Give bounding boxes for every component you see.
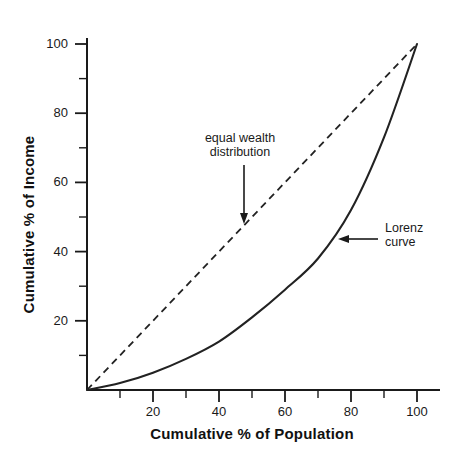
x-tick-label: 80 [331, 404, 371, 419]
y-tick-label: 40 [28, 244, 68, 259]
y-axis-major-ticks [75, 44, 87, 321]
y-tick-label: 80 [28, 105, 68, 120]
y-tick-label: 60 [28, 174, 68, 189]
x-axis-major-ticks [153, 390, 417, 402]
x-tick-label: 40 [199, 404, 239, 419]
y-tick-label: 20 [28, 313, 68, 328]
y-axis-title: Cumulative % of Income [20, 125, 37, 325]
y-axis-minor-ticks [79, 79, 87, 356]
x-axis-title: Cumulative % of Population [87, 425, 417, 442]
x-tick-label: 20 [133, 404, 173, 419]
lorenz-curve-chart: Cumulative % of Income Cumulative % of P… [0, 0, 470, 465]
x-tick-label: 100 [397, 404, 437, 419]
y-tick-label: 100 [28, 36, 68, 51]
x-tick-label: 60 [265, 404, 305, 419]
equal-wealth-annotation-text: equal wealth distribution [178, 131, 302, 159]
equality-line [87, 44, 417, 390]
lorenz-arrow-icon [338, 235, 378, 243]
lorenz-curve-annotation-text: Lorenz curve [385, 221, 455, 249]
lorenz-curve-line [87, 44, 417, 390]
equal-wealth-arrow-icon [240, 165, 248, 224]
x-axis-minor-ticks [120, 390, 384, 398]
